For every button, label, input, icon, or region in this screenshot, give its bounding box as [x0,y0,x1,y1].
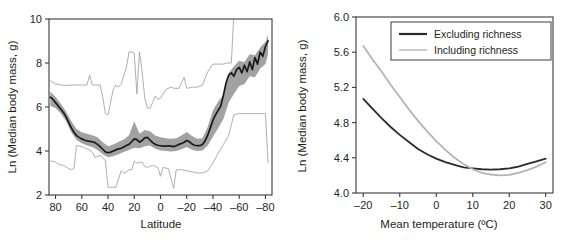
latitude-y-tick-label: 2 [36,189,42,201]
latitude-plot-area [50,11,268,188]
latitude-x-tick-label: 60 [76,201,88,213]
latitude-plot-frame [49,19,272,195]
latitude-x-axis-title: Latitude [141,218,182,230]
legend-label-excluding-richness: Excluding richness [434,28,522,40]
temperature-y-tick-label: 5.2 [334,81,349,93]
temperature-y-axis-title: Ln (Median body mass, g) [296,39,308,172]
curve-including-richness [363,46,545,175]
chart-legend: Excluding richnessIncluding richness [391,22,551,60]
series-lower-envelope [50,114,268,189]
temperature-x-tick-label: 30 [540,199,552,211]
temperature-x-tick-label: 20 [503,199,515,211]
latitude-x-tick-label: 0 [157,201,163,213]
temperature-x-tick-label: 10 [467,199,479,211]
temperature-y-tick-label: 6.0 [334,11,349,23]
latitude-x-tick-label: –80 [256,201,274,213]
series-upper-envelope [50,11,268,114]
temperature-x-tick-label: –10 [391,199,409,211]
latitude-y-tick-label: 8 [36,57,42,69]
temperature-y-tick-label: 4.0 [334,187,349,199]
temperature-chart-svg: –20–1001020304.04.44.85.25.66.0 Excludin… [284,0,568,247]
panel-temperature: –20–1001020304.04.44.85.25.66.0 Excludin… [284,0,568,247]
temperature-plot-area [363,46,545,175]
latitude-y-tick-label: 4 [36,145,42,157]
latitude-x-tick-label: 20 [128,201,140,213]
temperature-x-tick-label: 0 [433,199,439,211]
latitude-x-tick-label: –20 [178,201,196,213]
latitude-y-axis-title: Ln (Median body mass, g) [6,40,18,173]
temperature-y-tick-label: 4.4 [334,152,349,164]
temperature-y-tick-label: 4.8 [334,117,349,129]
latitude-chart-svg: 806040200–20–40–60–80246810 Ln (Median b… [0,0,284,247]
latitude-x-tick-label: 80 [49,201,61,213]
latitude-x-tick-label: –40 [204,201,222,213]
latitude-y-tick-label: 6 [36,101,42,113]
latitude-x-tick-label: –60 [230,201,248,213]
temperature-x-tick-label: –20 [354,199,372,211]
temperature-y-tick-label: 5.6 [334,46,349,58]
figure-two-panel: 806040200–20–40–60–80246810 Ln (Median b… [0,0,568,247]
legend-label-including-richness: Including richness [434,44,518,56]
panel-latitude: 806040200–20–40–60–80246810 Ln (Median b… [0,0,284,247]
latitude-y-tick-label: 10 [30,13,42,25]
latitude-x-tick-label: 40 [102,201,114,213]
curve-excluding-richness [363,99,545,170]
temperature-x-axis-title: Mean temperature (ºC) [380,218,497,230]
